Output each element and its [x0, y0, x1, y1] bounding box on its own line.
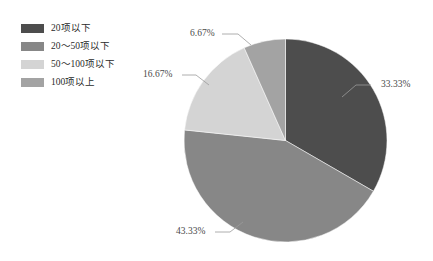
legend-label-1: 20项以下 [51, 23, 91, 33]
legend-label-2: 20～50项以下 [51, 41, 110, 51]
pie-data-label-4: 6.67% [190, 28, 215, 39]
pie-data-label-1: 33.33% [381, 79, 410, 90]
chart-legend: 20项以下 20～50项以下 50～100项以下 100项以上 [21, 19, 151, 91]
legend-swatch-icon-2 [21, 42, 44, 51]
legend-swatch-icon-4 [21, 78, 44, 87]
pie-chart-figure: 20项以下 20～50项以下 50～100项以下 100项以上 33.33% 4… [0, 0, 433, 261]
legend-item-1[interactable]: 20项以下 [21, 19, 151, 37]
legend-item-4[interactable]: 100项以上 [21, 73, 151, 91]
pie-data-label-3: 16.67% [143, 69, 172, 80]
pie-svg [183, 38, 388, 243]
legend-item-2[interactable]: 20～50项以下 [21, 37, 151, 55]
pie-data-label-2: 43.33% [176, 226, 205, 237]
legend-label-4: 100项以上 [51, 77, 95, 87]
legend-label-3: 50～100项以下 [51, 59, 115, 69]
legend-swatch-icon-1 [21, 24, 44, 33]
pie-area [183, 38, 388, 243]
legend-swatch-icon-3 [21, 60, 44, 69]
legend-item-3[interactable]: 50～100项以下 [21, 55, 151, 73]
